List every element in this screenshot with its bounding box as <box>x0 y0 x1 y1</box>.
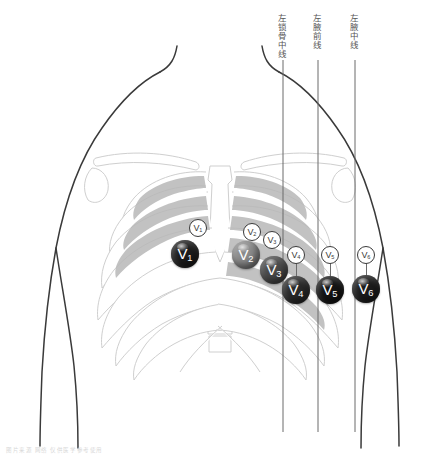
electrode-v5-letter: V <box>322 281 332 298</box>
scapula-right <box>332 168 356 202</box>
label-midaxillary-line: 左腋中线 <box>348 14 357 50</box>
watermark-text: 图片来源 网络 仅供医学参考使用 <box>6 446 103 454</box>
reference-marker-v4: V4 <box>287 246 305 264</box>
reference-marker-v5: V5 <box>321 246 339 264</box>
label-anterior-axillary-line: 左腋前线 <box>311 14 320 50</box>
electrode-v2-letter: V <box>238 246 248 263</box>
reference-marker-v2-subscript: 2 <box>253 231 256 237</box>
reference-marker-v3-subscript: 3 <box>273 239 276 245</box>
scapula-left <box>85 168 109 202</box>
reference-marker-v5-subscript: 5 <box>331 254 334 260</box>
electrode-v3-letter: V <box>266 261 276 278</box>
electrode-v1-subscript: 1 <box>187 253 192 263</box>
electrode-v1-letter: V <box>177 245 187 262</box>
clavicle-left <box>94 153 199 170</box>
electrode-v3-subscript: 3 <box>276 269 281 279</box>
electrode-v4-subscript: 4 <box>298 289 303 299</box>
electrode-v1: V1 <box>171 240 199 268</box>
clavicle-right <box>241 153 346 170</box>
reference-marker-v6-subscript: 6 <box>367 254 370 260</box>
reference-marker-v1-subscript: 1 <box>199 227 202 233</box>
electrode-v2-subscript: 2 <box>248 254 253 264</box>
ecg-chest-lead-diagram: 左锁骨中线 左腋前线 左腋中线 V1 V2 V3 V4 V5 V6 V1 V2 … <box>0 0 445 460</box>
electrode-v4: V4 <box>282 276 310 304</box>
anatomy-illustration <box>0 0 445 460</box>
reference-marker-v3: V3 <box>263 231 281 249</box>
electrode-v5-subscript: 5 <box>332 289 337 299</box>
reference-marker-v6: V6 <box>357 246 375 264</box>
electrode-v6: V6 <box>352 275 380 303</box>
electrode-v6-subscript: 6 <box>368 288 373 298</box>
electrode-v3: V3 <box>260 256 288 284</box>
label-midclavicular-line: 左锁骨中线 <box>276 14 285 59</box>
electrode-v2: V2 <box>232 241 260 269</box>
reference-marker-v1: V1 <box>189 219 207 237</box>
electrode-v4-letter: V <box>288 281 298 298</box>
electrode-v5: V5 <box>316 276 344 304</box>
reference-marker-v4-subscript: 4 <box>297 254 300 260</box>
reference-marker-v2: V2 <box>243 223 261 241</box>
electrode-v6-letter: V <box>358 280 368 297</box>
